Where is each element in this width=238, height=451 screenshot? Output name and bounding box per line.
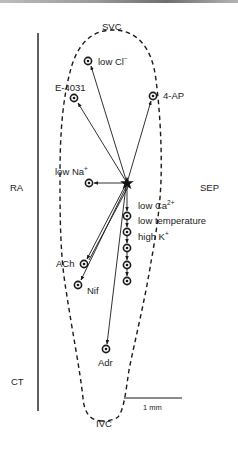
label-4-ap: 4-AP [163, 90, 184, 101]
label-adr: Adr [98, 357, 113, 368]
scale-bar-label: 1 mm [143, 402, 162, 413]
marker-low-na-icon [85, 179, 92, 186]
label-sep: SEP [200, 182, 219, 193]
label-nif: Nif [87, 285, 99, 296]
label-svc: SVC [102, 21, 122, 32]
marker-low-cl-icon [84, 57, 91, 64]
label-low-na: low Na+ [55, 166, 88, 177]
marker-chain-2-icon [123, 228, 130, 235]
label-ach: ACh [56, 258, 74, 269]
marker-nif-icon [74, 281, 81, 288]
marker-e-4031-icon [70, 94, 77, 101]
label-ivc: IVC [96, 418, 112, 429]
marker-ach-icon [80, 260, 87, 267]
marker-chain-3-icon [123, 244, 130, 251]
label-low-ca: low Ca2+ [138, 200, 174, 211]
label-high-k: high K+ [138, 231, 169, 242]
label-e-4031: E-4031 [55, 82, 86, 93]
label-low-temperature: low temperature [138, 215, 206, 226]
label-low-cl: low Cl− [98, 56, 128, 67]
marker-4-ap-icon [149, 92, 156, 99]
marker-chain-4-icon [123, 261, 130, 268]
label-ct: CT [11, 376, 24, 387]
marker-chain-5-icon [123, 277, 130, 284]
marker-chain-1-icon [123, 212, 130, 219]
marker-adr-icon [102, 345, 109, 352]
label-ra: RA [10, 182, 23, 193]
